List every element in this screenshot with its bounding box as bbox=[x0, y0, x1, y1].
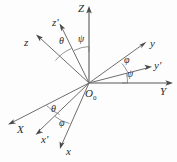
axis-label-X: X bbox=[17, 124, 24, 135]
axis-label-x: x bbox=[66, 146, 71, 157]
angle-arc-psi-upper bbox=[74, 47, 89, 51]
origin-label-letter: O bbox=[85, 87, 93, 99]
angle-label-theta-upper: θ bbox=[59, 36, 64, 46]
axis-label-z: z bbox=[24, 37, 28, 48]
axis-line-z-prime bbox=[62, 28, 89, 83]
axis-label-z-prime: z' bbox=[52, 17, 59, 28]
axis-label-y: y bbox=[150, 38, 155, 49]
axis-label-x-prime: x' bbox=[41, 134, 48, 145]
origin-label-subscript: 0 bbox=[93, 94, 97, 102]
origin-label: O0 bbox=[85, 88, 96, 102]
angle-label-psi-upper: ψ bbox=[78, 34, 84, 44]
arrowhead-y-icon bbox=[139, 42, 146, 49]
axis-group-fixed bbox=[8, 6, 173, 125]
axis-label-Y: Y bbox=[160, 86, 166, 97]
euler-angles-diagram: Z Y X z y x z' y' x' θ ψ φ ψ θ φ O0 bbox=[0, 0, 177, 162]
angle-label-theta-lower: θ bbox=[51, 104, 56, 114]
arrowhead-X-icon bbox=[8, 119, 16, 124]
axis-label-Z: Z bbox=[78, 3, 84, 14]
arrowhead-z-prime-icon bbox=[60, 24, 66, 32]
angle-label-phi-lower: φ bbox=[59, 118, 65, 128]
angle-label-phi-right: φ bbox=[124, 55, 130, 65]
arrowhead-y-prime-icon bbox=[144, 65, 152, 70]
axis-line-y-prime bbox=[89, 68, 147, 83]
axes-svg bbox=[0, 0, 177, 162]
axis-label-y-prime: y' bbox=[154, 60, 161, 71]
axis-line-z bbox=[40, 38, 89, 83]
angle-label-psi-right: ψ bbox=[127, 69, 133, 79]
axis-line-y bbox=[89, 45, 142, 83]
